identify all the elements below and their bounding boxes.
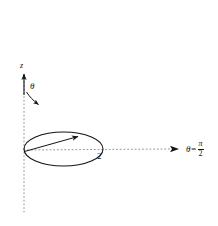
pi-over-two-fraction: π 2 <box>198 140 204 158</box>
coordinate-diagram <box>0 0 218 226</box>
radius-value-label: 2 <box>97 152 102 161</box>
ray-equation-label: θ= π 2 <box>186 140 204 158</box>
ray-equation-lhs: θ= <box>186 145 197 154</box>
z-axis-label: z <box>20 62 23 70</box>
fraction-numerator: π <box>198 140 204 148</box>
fraction-denominator: 2 <box>198 150 204 158</box>
diagram-background <box>0 0 218 226</box>
theta-angle-label: θ <box>30 82 34 91</box>
